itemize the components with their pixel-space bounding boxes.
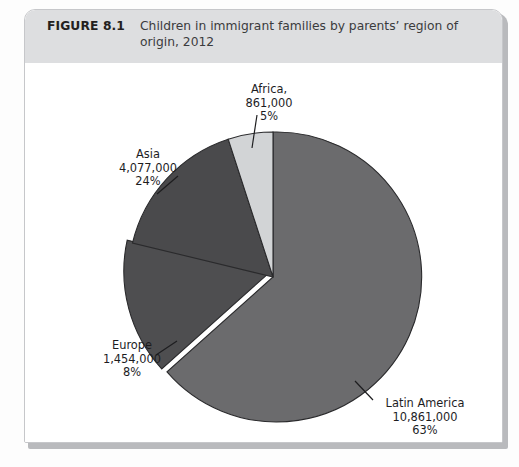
pie-label-africa-name: Africa,: [229, 83, 309, 97]
pie-label-latin-america-name: Latin America: [365, 397, 485, 411]
pie-label-latin-america: Latin America 10,861,000 63%: [365, 397, 485, 438]
pie-label-africa: Africa, 861,000 5%: [229, 83, 309, 124]
pie-label-latin-america-value: 10,861,000: [365, 411, 485, 425]
figure-header-band: FIGURE 8.1 Children in immigrant familie…: [25, 10, 502, 63]
pie-label-europe-pct: 8%: [85, 366, 179, 380]
figure-root: FIGURE 8.1 Children in immigrant familie…: [0, 0, 519, 467]
pie-label-asia-pct: 24%: [101, 175, 195, 189]
pie-label-europe-name: Europe: [85, 339, 179, 353]
pie-label-asia-value: 4,077,000: [101, 162, 195, 176]
pie-label-africa-value: 861,000: [229, 97, 309, 111]
pie-label-latin-america-pct: 63%: [365, 424, 485, 438]
pie-chart: Africa, 861,000 5% Asia 4,077,000 24% Eu…: [25, 63, 502, 442]
pie-label-europe-value: 1,454,000: [85, 353, 179, 367]
pie-label-africa-pct: 5%: [229, 110, 309, 124]
pie-label-asia-name: Asia: [101, 148, 195, 162]
figure-number: FIGURE 8.1: [47, 19, 125, 33]
pie-label-asia: Asia 4,077,000 24%: [101, 148, 195, 189]
pie-label-europe: Europe 1,454,000 8%: [85, 339, 179, 380]
figure-caption: Children in immigrant families by parent…: [140, 19, 470, 50]
figure-box: FIGURE 8.1 Children in immigrant familie…: [24, 9, 503, 443]
